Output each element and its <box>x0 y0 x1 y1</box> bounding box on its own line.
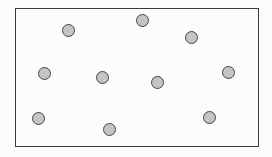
circle-dot-1 <box>62 24 75 37</box>
circle-dot-7 <box>222 66 235 79</box>
circle-dot-2 <box>136 14 149 27</box>
diagram-frame <box>15 8 259 147</box>
circle-dot-4 <box>38 67 51 80</box>
circle-dot-6 <box>151 76 164 89</box>
circle-dot-9 <box>103 123 116 136</box>
circle-dot-5 <box>96 71 109 84</box>
circle-dot-8 <box>32 112 45 125</box>
circle-dot-3 <box>185 31 198 44</box>
circle-dot-10 <box>203 111 216 124</box>
